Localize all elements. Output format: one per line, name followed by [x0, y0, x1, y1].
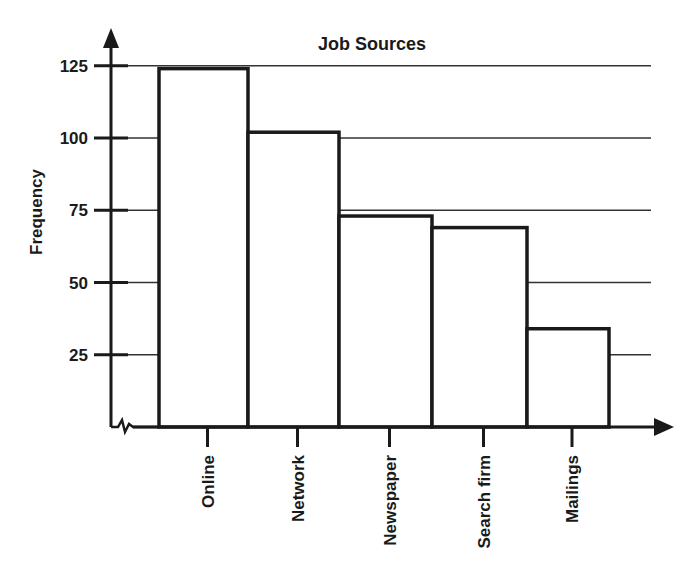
y-tick-label: 125 [60, 57, 88, 76]
y-tick-label: 25 [69, 346, 88, 365]
x-tick-label: Newspaper [381, 455, 400, 546]
x-tick-label: Online [199, 455, 218, 508]
y-axis-label: Frequency [27, 168, 46, 255]
y-tick-label: 100 [60, 129, 88, 148]
y-axis-arrow-icon [103, 28, 119, 48]
chart-title: Job Sources [318, 34, 426, 54]
x-axis-arrow-icon [654, 418, 674, 436]
job-sources-chart: 255075100125 OnlineNetworkNewspaperSearc… [0, 0, 681, 586]
x-tick-label: Search firm [475, 455, 494, 549]
bar-search-firm [432, 228, 527, 427]
y-tick-label: 75 [69, 201, 88, 220]
x-tick-label: Mailings [563, 455, 582, 523]
x-ticks: OnlineNetworkNewspaperSearch firmMailing… [199, 427, 583, 549]
bars [159, 69, 609, 427]
y-ticks: 255075100125 [60, 57, 128, 365]
bar-network [248, 132, 339, 427]
x-tick-label: Network [289, 454, 308, 522]
bar-newspaper [339, 216, 432, 427]
bar-online [159, 69, 248, 427]
y-tick-label: 50 [69, 274, 88, 293]
bar-mailings [527, 329, 609, 427]
